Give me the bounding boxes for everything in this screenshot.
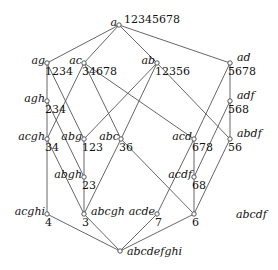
node-intent-label: abc (99, 130, 119, 143)
node-extent-label: 4 (45, 216, 52, 229)
node-intent-label: ag (31, 54, 45, 67)
node-intent-label: adf (237, 89, 257, 102)
node-extent-label: 234 (45, 103, 66, 116)
node-extent-label: 568 (228, 103, 249, 116)
node-intent-label: ad (237, 51, 251, 64)
node-extent-label: 678 (192, 141, 213, 154)
node-intent-label: ac (69, 54, 82, 67)
node-intent-label: acdf (168, 168, 194, 181)
lattice-edge (121, 63, 157, 139)
node-extent-label: 7 (155, 216, 162, 229)
lattice-edge (194, 63, 230, 139)
lattice-edge (84, 25, 119, 63)
node-intent-label: ab (141, 54, 155, 67)
lattice-edge (194, 101, 230, 177)
node-extent-label: 68 (192, 179, 206, 192)
lattice-edge (47, 25, 119, 63)
concept-lattice-diagram: a12345678ag1234ac34678ab12356ad5678agh23… (0, 0, 278, 270)
lattice-node-a (117, 23, 121, 27)
node-extent-label: 6 (192, 216, 199, 229)
node-extent-label: 36 (119, 141, 133, 154)
node-extent-label: 34678 (82, 65, 117, 78)
node-intent-label: acghi (15, 205, 45, 218)
node-intent-label: acgh (18, 130, 45, 143)
node-intent-label: acd (172, 130, 192, 143)
node-extent-label: 56 (228, 141, 242, 154)
lattice-edge (119, 25, 230, 63)
node-extent-label: 12345678 (124, 13, 180, 26)
node-extent-label: 3 (82, 216, 89, 229)
node-intent-label: agh (24, 92, 45, 105)
node-extent-label: 34 (45, 141, 59, 154)
node-extent-label: 12356 (155, 65, 190, 78)
lattice-edge (84, 214, 120, 251)
node-intent-label: abcgh (91, 205, 125, 218)
node-intent-label: abgh (54, 168, 82, 181)
node-intent-label: abcdefghi (127, 245, 182, 258)
node-intent-label: a (110, 16, 117, 29)
node-intent-label: abdf (237, 127, 264, 140)
floating-label-abcdf: abcdf (236, 208, 269, 221)
node-extent-label: 5678 (228, 65, 256, 78)
lattice-node-bottom (118, 249, 122, 253)
node-extent-label: 23 (82, 179, 96, 192)
lattice-labels: a12345678ag1234ac34678ab12356ad5678agh23… (15, 13, 269, 258)
node-intent-label: acde (129, 205, 156, 218)
node-intent-label: abg (61, 130, 82, 143)
